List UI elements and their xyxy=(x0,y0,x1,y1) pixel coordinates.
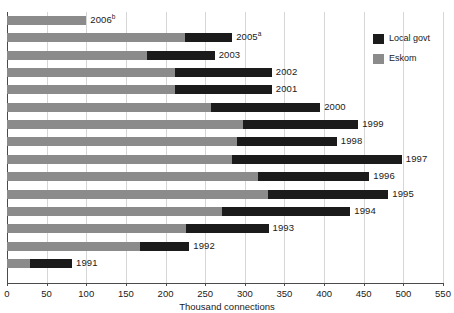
bar-segment-eskom xyxy=(7,207,222,216)
tick-mark-150 xyxy=(126,283,127,286)
x-tick-label-50: 50 xyxy=(41,288,52,300)
bar-segment-eskom xyxy=(7,242,140,251)
bar-segment-eskom xyxy=(7,190,268,199)
bar-segment-eskom xyxy=(7,85,175,94)
bar-segment-local-govt xyxy=(185,33,233,42)
tick-mark-400 xyxy=(324,283,325,286)
tick-mark-550 xyxy=(443,283,444,286)
legend-item-local-govt: Local govt xyxy=(373,30,430,47)
x-tick-label-550: 550 xyxy=(435,288,451,300)
bar-segment-local-govt xyxy=(258,172,369,181)
bar-segment-eskom xyxy=(7,68,175,77)
tick-mark-0 xyxy=(7,283,8,286)
bar-segment-local-govt xyxy=(232,155,402,164)
bar-segment-eskom xyxy=(7,103,211,112)
x-tick-label-0: 0 xyxy=(4,288,9,300)
x-axis-line xyxy=(7,283,444,284)
tick-mark-100 xyxy=(86,283,87,286)
x-tick-label-200: 200 xyxy=(158,288,174,300)
bar-segment-local-govt xyxy=(222,207,350,216)
bar-segment-local-govt xyxy=(140,242,189,251)
gridline-450 xyxy=(364,12,365,283)
bar-label-footnote: a xyxy=(258,30,262,37)
x-tick-label-150: 150 xyxy=(118,288,134,300)
bar-category-label: 1993 xyxy=(273,221,295,235)
x-axis-title: Thousand connections xyxy=(0,301,454,313)
x-tick-label-350: 350 xyxy=(277,288,293,300)
legend-swatch-eskom xyxy=(373,54,384,64)
bar-segment-eskom xyxy=(7,224,186,233)
bar-segment-local-govt xyxy=(243,120,358,129)
gridline-300 xyxy=(245,12,246,283)
bar-category-label: 2003 xyxy=(219,48,241,62)
bar-segment-local-govt xyxy=(30,259,72,268)
bar-category-label: 1991 xyxy=(76,256,98,270)
bar-segment-eskom xyxy=(7,16,86,25)
x-tick-label-100: 100 xyxy=(78,288,94,300)
bar-category-label: 1997 xyxy=(406,152,428,166)
bar-segment-eskom xyxy=(7,33,185,42)
legend-label-eskom: Eskom xyxy=(389,53,417,64)
x-tick-label-450: 450 xyxy=(356,288,372,300)
bar-segment-local-govt xyxy=(268,190,388,199)
bar-category-label: 1999 xyxy=(362,117,384,131)
x-tick-label-300: 300 xyxy=(237,288,253,300)
x-tick-label-500: 500 xyxy=(395,288,411,300)
legend-swatch-local-govt xyxy=(373,34,384,44)
bar-segment-local-govt xyxy=(211,103,320,112)
bar-segment-local-govt xyxy=(147,51,215,60)
bar-segment-local-govt xyxy=(175,85,272,94)
bar-category-label: 1996 xyxy=(373,169,395,183)
bar-segment-eskom xyxy=(7,120,243,129)
bar-category-label: 1995 xyxy=(392,187,414,201)
bar-segment-eskom xyxy=(7,137,237,146)
bar-segment-eskom xyxy=(7,51,147,60)
tick-mark-450 xyxy=(364,283,365,286)
bar-segment-eskom xyxy=(7,155,232,164)
x-tick-label-400: 400 xyxy=(316,288,332,300)
bar-category-label: 1998 xyxy=(341,134,363,148)
gridline-550 xyxy=(443,12,444,283)
bar-category-label: 2000 xyxy=(324,100,346,114)
bar-category-label: 2005a xyxy=(236,30,261,44)
stacked-bar-chart: 2006b2005a200320022001200019991998199719… xyxy=(0,0,454,313)
bar-category-label: 2002 xyxy=(276,65,298,79)
bar-segment-local-govt xyxy=(186,224,268,233)
chart-legend: Local govt Eskom xyxy=(373,30,430,70)
gridline-350 xyxy=(284,12,285,283)
bar-segment-local-govt xyxy=(237,137,337,146)
bar-segment-eskom xyxy=(7,259,30,268)
tick-mark-350 xyxy=(284,283,285,286)
bar-segment-eskom xyxy=(7,172,258,181)
bar-category-label: 2001 xyxy=(276,82,298,96)
tick-mark-250 xyxy=(205,283,206,286)
tick-mark-500 xyxy=(403,283,404,286)
bar-segment-local-govt xyxy=(175,68,272,77)
bar-category-label: 1994 xyxy=(354,204,376,218)
legend-label-local-govt: Local govt xyxy=(389,33,430,44)
cropped-title-remnant xyxy=(0,0,454,6)
tick-mark-50 xyxy=(47,283,48,286)
tick-mark-200 xyxy=(166,283,167,286)
x-tick-label-250: 250 xyxy=(197,288,213,300)
bar-label-footnote: b xyxy=(112,13,116,20)
bar-category-label: 1992 xyxy=(193,239,215,253)
legend-item-eskom: Eskom xyxy=(373,50,430,67)
gridline-400 xyxy=(324,12,325,283)
tick-mark-300 xyxy=(245,283,246,286)
bar-category-label: 2006b xyxy=(90,13,115,27)
